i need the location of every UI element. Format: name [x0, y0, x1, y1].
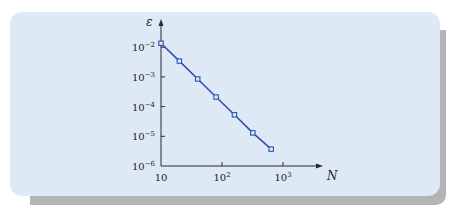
- axes: [159, 19, 324, 169]
- y-tick-label: 10−3: [132, 71, 155, 83]
- x-axis-label: N: [326, 169, 338, 183]
- series: [159, 41, 274, 151]
- x-axis-arrow: [316, 164, 323, 169]
- data-point: [232, 113, 236, 117]
- x-tick-label: 10: [155, 172, 168, 183]
- chart: 10−210−310−410−510−610102103 N ε: [0, 0, 455, 208]
- data-point: [159, 41, 163, 45]
- x-tick-label: 103: [274, 171, 291, 183]
- y-axis-arrow: [159, 19, 164, 26]
- y-tick-label: 10−2: [132, 41, 155, 53]
- ticks: 10−210−310−410−510−610102103: [132, 41, 292, 183]
- data-point: [177, 59, 181, 63]
- data-point: [251, 131, 255, 135]
- x-tick-label: 102: [213, 171, 230, 183]
- y-tick-label: 10−4: [132, 101, 156, 113]
- y-tick-label: 10−5: [132, 130, 155, 142]
- data-point: [196, 77, 200, 81]
- y-tick-label: 10−6: [132, 160, 156, 172]
- data-point: [214, 95, 218, 99]
- y-axis-label: ε: [146, 15, 152, 29]
- data-point: [269, 147, 273, 151]
